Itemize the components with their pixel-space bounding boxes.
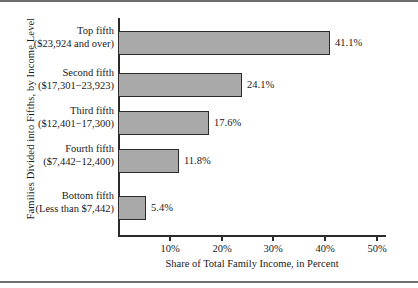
x-tick-label-30: 30% xyxy=(253,243,293,254)
bar-fourth-fifth[interactable] xyxy=(118,149,179,173)
category-name: Top fifth xyxy=(0,25,114,38)
chart-figure: Families Divided into Fifths, by Income … xyxy=(0,0,418,288)
category-label-top-fifth: Top fifth ($23,924 and over) xyxy=(0,25,114,50)
x-tick-label-50: 50% xyxy=(357,243,397,254)
category-name: Fourth fifth xyxy=(0,143,114,156)
bar-value-third-fifth: 17.6% xyxy=(214,111,241,135)
x-tick-40 xyxy=(324,235,326,241)
x-tick-20 xyxy=(221,235,223,241)
category-range: ($7,442−12,400) xyxy=(0,156,114,169)
category-name: Third fifth xyxy=(0,105,114,118)
x-tick-30 xyxy=(272,235,274,241)
page-rule-top xyxy=(0,0,418,2)
bar-third-fifth[interactable] xyxy=(118,111,209,135)
bar-value-bottom-fifth: 5.4% xyxy=(151,196,173,220)
category-label-third-fifth: Third fifth ($12,401−17,300) xyxy=(0,105,114,130)
x-tick-label-10: 10% xyxy=(150,243,190,254)
category-range: (Less than $7,442) xyxy=(0,203,114,216)
category-name: Bottom fifth xyxy=(0,190,114,203)
category-label-fourth-fifth: Fourth fifth ($7,442−12,400) xyxy=(0,143,114,168)
x-tick-label-20: 20% xyxy=(202,243,242,254)
x-axis-title: Share of Total Family Income, in Percent xyxy=(118,258,386,269)
category-label-bottom-fifth: Bottom fifth (Less than $7,442) xyxy=(0,190,114,215)
bar-value-second-fifth: 24.1% xyxy=(247,73,274,97)
x-tick-10 xyxy=(169,235,171,241)
bar-value-top-fifth: 41.1% xyxy=(335,31,362,55)
bar-top-fifth[interactable] xyxy=(118,31,330,55)
category-label-second-fifth: Second fifth ($17,301−23,923) xyxy=(0,67,114,92)
bar-second-fifth[interactable] xyxy=(118,73,242,97)
plot-area: 41.1% 24.1% 17.6% 11.8% 5.4% 10% 20% 30%… xyxy=(118,18,386,237)
category-range: ($23,924 and over) xyxy=(0,38,114,51)
page-rule-bottom xyxy=(0,281,418,283)
bar-bottom-fifth[interactable] xyxy=(118,196,146,220)
category-range: ($12,401−17,300) xyxy=(0,118,114,131)
x-tick-label-40: 40% xyxy=(305,243,345,254)
category-name: Second fifth xyxy=(0,67,114,80)
bar-value-fourth-fifth: 11.8% xyxy=(184,149,211,173)
x-axis-line xyxy=(118,235,386,237)
x-tick-50 xyxy=(376,235,378,241)
category-range: ($17,301−23,923) xyxy=(0,80,114,93)
